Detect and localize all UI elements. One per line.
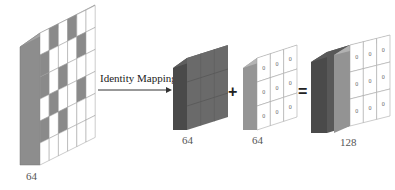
zeros-front-grid: 000000000 bbox=[257, 45, 297, 130]
zero-value: 0 bbox=[275, 85, 278, 91]
grid-cell bbox=[77, 120, 86, 147]
zero-value: 0 bbox=[289, 80, 292, 86]
grid-cell bbox=[40, 138, 49, 165]
zero-value: 0 bbox=[275, 109, 278, 115]
identity-channels-label: 64 bbox=[182, 134, 194, 146]
input-block bbox=[20, 5, 95, 165]
concat-block: 000000000 bbox=[311, 35, 390, 133]
equals-symbol: = bbox=[298, 83, 307, 100]
zero-value: 0 bbox=[382, 47, 385, 53]
arrow-head-icon bbox=[166, 87, 172, 93]
concat-dark-side bbox=[311, 52, 327, 133]
input-channels-label: 64 bbox=[26, 170, 38, 182]
zero-value: 0 bbox=[262, 89, 265, 95]
zero-value: 0 bbox=[368, 78, 371, 84]
zeros-block: 000000000 bbox=[243, 45, 297, 130]
zeros-side-face bbox=[243, 58, 257, 130]
concat-channels-label: 128 bbox=[340, 136, 357, 148]
zero-value: 0 bbox=[355, 108, 358, 114]
grid-cell bbox=[49, 134, 58, 161]
arrow-label: Identity Mapping bbox=[100, 72, 177, 84]
concat-light-side bbox=[334, 45, 350, 133]
zero-value: 0 bbox=[368, 51, 371, 57]
concat-front-grid: 000000000 bbox=[350, 35, 390, 126]
grid-cell bbox=[68, 125, 77, 152]
zero-value: 0 bbox=[355, 54, 358, 60]
zero-value: 0 bbox=[275, 61, 278, 67]
zero-value: 0 bbox=[368, 105, 371, 111]
input-side-face bbox=[20, 33, 40, 165]
plus-symbol: + bbox=[228, 83, 237, 100]
identity-side-face bbox=[173, 58, 187, 130]
identity-arrow bbox=[98, 87, 172, 93]
identity-front-face bbox=[187, 45, 228, 130]
grid-cell bbox=[86, 115, 95, 142]
identity-block bbox=[173, 45, 228, 130]
zero-value: 0 bbox=[289, 56, 292, 62]
zero-value: 0 bbox=[262, 113, 265, 119]
zero-value: 0 bbox=[382, 101, 385, 107]
zeros-channels-label: 64 bbox=[252, 134, 264, 146]
input-front-grid bbox=[40, 5, 95, 165]
diagram-canvas: 64 Identity Mapping 64 + 000000000 64 = … bbox=[0, 0, 395, 190]
zero-value: 0 bbox=[262, 65, 265, 71]
grid-cell bbox=[58, 129, 67, 156]
zero-value: 0 bbox=[382, 74, 385, 80]
zero-value: 0 bbox=[289, 104, 292, 110]
zero-value: 0 bbox=[355, 81, 358, 87]
